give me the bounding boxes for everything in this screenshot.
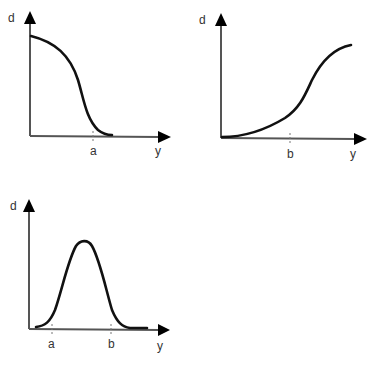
tick-label-a: a: [90, 144, 97, 158]
x-axis-arrow-icon: [354, 133, 367, 145]
x-axis-label: y: [157, 339, 163, 353]
y-axis-arrow-icon: [23, 199, 35, 212]
x-axis: [221, 138, 356, 139]
y-axis-label: d: [199, 13, 206, 27]
x-axis-arrow-icon: [158, 324, 170, 336]
panel-top-left: d a y: [8, 11, 171, 158]
x-axis-label: y: [350, 147, 356, 161]
x-axis: [30, 136, 160, 137]
panel-bottom-left: d a b y: [10, 199, 170, 353]
tick-label-b: b: [287, 147, 294, 161]
panel-top-right: d b y: [199, 13, 367, 161]
y-axis-arrow-icon: [215, 13, 227, 26]
x-axis-arrow-icon: [158, 131, 171, 143]
decreasing-curve: [31, 36, 112, 135]
y-axis-label: d: [8, 11, 15, 25]
increasing-curve: [222, 45, 351, 137]
tick-label-b: b: [108, 337, 115, 351]
tick-label-a: a: [48, 337, 55, 351]
diagram-canvas: d a y d b y d a b y: [0, 0, 380, 371]
y-axis-label: d: [10, 199, 17, 213]
x-axis-label: y: [155, 144, 161, 158]
bell-curve: [36, 241, 147, 328]
y-axis-arrow-icon: [24, 11, 36, 24]
